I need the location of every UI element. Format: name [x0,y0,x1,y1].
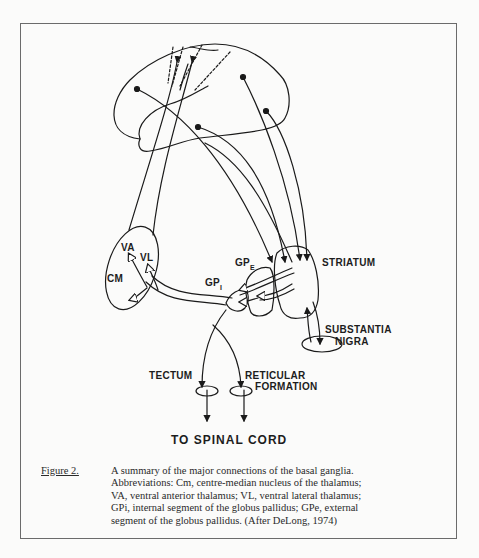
label-formation: FORMATION [255,382,318,392]
label-gpi: GPI [205,278,222,288]
caption-line: A summary of the major connections of th… [111,465,429,477]
label-vl: VL [140,253,153,263]
label-cm: CM [107,274,123,284]
spinal-cord-arrows [207,390,244,421]
cortex-outline [114,44,289,151]
label-nigra: NIGRA [335,337,369,347]
pallidal-descending-fibers [202,310,241,387]
figure-number: Figure 2. [41,465,79,476]
caption-line: GPi, internal segment of the globus pall… [111,502,429,514]
corticostriatal-fibers [135,75,308,263]
label-spinal-cord: TO SPINAL CORD [171,434,287,446]
figure-caption: A summary of the major connections of th… [111,465,429,527]
caption-line: VA, ventral anterior thalamus; VL, ventr… [111,490,429,502]
thalamus-ellipse [96,220,168,317]
label-gpe: GPE [235,258,255,268]
label-tectum: TECTUM [149,371,192,381]
label-reticular: RETICULAR [245,371,305,381]
caption-line: Abbreviations: Cm, centre-median nucleus… [111,477,429,489]
caption-line: segment of the globus pallidus. (After D… [111,515,429,527]
striatum-shape [274,246,318,318]
label-striatum: STRIATUM [322,258,375,268]
cortex-dashed-lines [168,45,230,90]
label-substantia: SUBSTANTIA [325,325,392,335]
label-va: VA [121,243,135,253]
